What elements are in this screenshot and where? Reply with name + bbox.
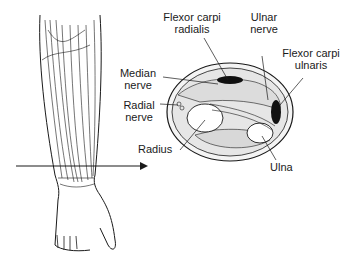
anatomy-illustration bbox=[0, 0, 343, 265]
forearm-cross-section bbox=[167, 63, 293, 161]
label-ulna: Ulna bbox=[270, 161, 293, 173]
label-median-nerve: Median nerve bbox=[115, 67, 161, 91]
label-ulnar-nerve: Ulnar nerve bbox=[244, 11, 284, 35]
ulna-bone bbox=[247, 123, 273, 143]
flexor-carpi-radialis-tendon bbox=[217, 76, 243, 84]
label-radius: Radius bbox=[138, 143, 172, 155]
label-radial-nerve: Radial nerve bbox=[119, 99, 159, 123]
label-flexor-carpi-radialis: Flexor carpi radialis bbox=[152, 11, 232, 35]
radius-bone bbox=[187, 104, 223, 132]
label-flexor-carpi-ulnaris: Flexor carpi ulnaris bbox=[276, 47, 343, 71]
forearm-drawing bbox=[40, 15, 116, 251]
flexor-carpi-ulnaris-tendon bbox=[271, 100, 281, 124]
section-arrow bbox=[16, 162, 148, 170]
